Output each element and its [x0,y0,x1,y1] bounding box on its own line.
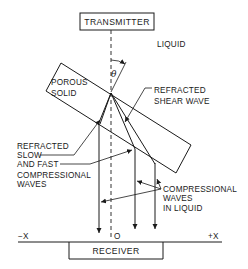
liquid-waves-label-line1: COMPRESSIONAL [163,185,237,194]
slow-fast-label-line2: SLOW [17,151,42,160]
receiver-label: RECEIVER [92,246,139,256]
theta-symbol: θ [111,69,117,79]
slow-fast-label-line1: REFRACTED [17,142,69,151]
pos-x-label: +X [208,232,219,241]
liquid-waves-label-line2: WAVES [163,194,193,203]
liquid-waves-label-line3: IN LIQUID [163,204,203,213]
porous-solid-label-line2: SOLID [51,89,77,98]
transmitter-box: TRANSMITTER [80,13,154,30]
neg-x-label: −X [18,232,29,241]
slow-fast-label-line5: WAVES [17,180,47,189]
slow-fast-label-line4: COMPRESSIONAL [17,171,91,180]
compressional-waves-in-liquid [99,124,155,233]
shear-wave-leader [125,88,152,122]
fast-wave-leader [60,150,132,164]
liquid-waves-leaders [101,179,161,202]
shear-wave-label-line1: REFRACTED [154,86,206,95]
slow-fast-label-line3: AND FAST [17,160,59,169]
liquid-label: LIQUID [157,40,186,49]
ultrasound-refraction-diagram: TRANSMITTER LIQUID θ POROUS SOLID REFRAC… [0,0,248,269]
origin-label: O [114,232,121,241]
porous-solid-label-line1: POROUS [51,78,88,87]
transmitter-label: TRANSMITTER [84,17,150,27]
shear-wave-label-line2: SHEAR WAVE [154,97,210,106]
theta-arc [111,60,125,64]
receiver-box: RECEIVER [69,242,163,259]
refracted-rays [98,93,155,164]
